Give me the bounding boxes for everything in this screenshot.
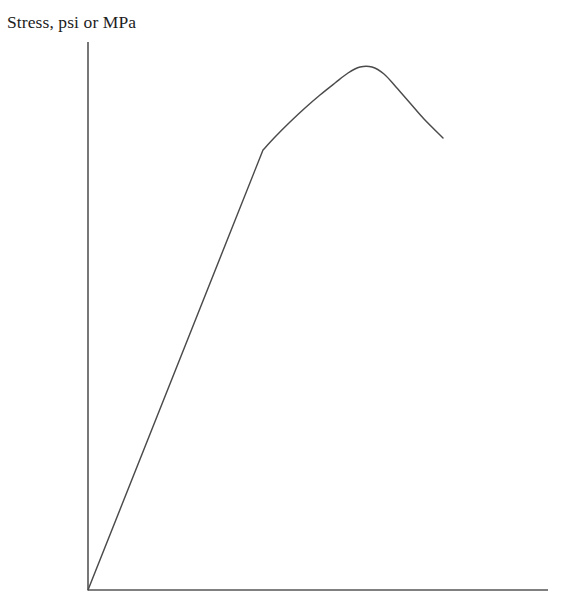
figure-canvas: Stress, psi or MPa — [0, 0, 565, 607]
stress-strain-plot — [0, 0, 565, 607]
stress-strain-curve — [88, 66, 443, 590]
